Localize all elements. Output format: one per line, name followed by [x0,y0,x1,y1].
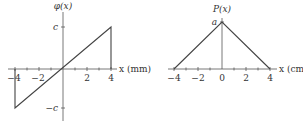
right-xlabel: x (cm) [279,64,303,74]
left-xtick-pos4-label: 4 [108,73,114,83]
figure-canvas: φ(x) c −c −4 −2 2 4 x (mm) P(x) a −4 −2 … [0,0,303,131]
left-ytick-negc-label: −c [45,103,58,113]
left-xlabel: x (mm) [119,64,151,74]
right-ytick-a-label: a [212,17,217,27]
left-xtick-pos2-label: 2 [84,73,90,83]
probability-chart: P(x) a −4 −2 0 2 4 x (cm) [167,4,303,83]
right-xtick-pos4-label: 4 [267,73,273,83]
right-xtick-pos2-label: 2 [243,73,249,83]
left-xtick-neg4-label: −4 [7,73,21,83]
left-ytick-c-label: c [53,22,58,32]
right-xtick-neg2-label: −2 [191,73,204,83]
left-xtick-neg2-label: −2 [31,73,44,83]
right-xtick-zero-label: 0 [219,73,225,83]
phi-chart: φ(x) c −c −4 −2 2 4 x (mm) [7,1,151,121]
right-ylabel: P(x) [212,4,232,14]
right-xtick-neg4-label: −4 [167,73,181,83]
left-ylabel: φ(x) [54,1,73,11]
